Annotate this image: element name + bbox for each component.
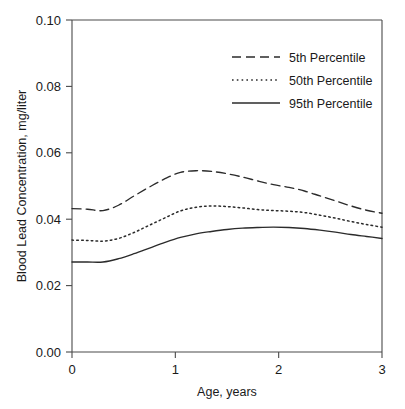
y-tick-label: 0.10 [36,13,61,28]
x-tick-label: 1 [172,362,179,377]
x-tick-label: 2 [275,362,282,377]
series-line-95th-percentile [72,227,382,262]
x-tick-label: 0 [68,362,75,377]
y-axis: 0.000.020.040.060.080.10 [36,13,72,360]
y-tick-label: 0.02 [36,278,61,293]
legend-label-2: 50th Percentile [289,74,372,88]
legend-label-3: 95th Percentile [289,97,372,111]
plot-frame [72,20,382,352]
x-tick-label: 3 [378,362,385,377]
x-axis-title: Age, years [197,385,257,399]
chart-legend: 5th Percentile50th Percentile95th Percen… [232,51,372,111]
legend-label-1: 5th Percentile [289,51,365,65]
line-chart-canvas: 0.000.020.040.060.080.10 0123 5th Percen… [0,0,405,409]
y-tick-label: 0.00 [36,345,61,360]
series-line-5th-percentile [72,171,382,214]
y-tick-label: 0.06 [36,145,61,160]
chart-figure: 0.000.020.040.060.080.10 0123 5th Percen… [0,0,405,409]
data-series-group [72,171,382,263]
y-axis-title: Blood Lead Concentration, mg/liter [15,90,29,282]
series-line-50th-percentile [72,206,382,241]
y-tick-label: 0.04 [36,212,61,227]
y-tick-label: 0.08 [36,79,61,94]
x-axis: 0123 [68,352,385,377]
